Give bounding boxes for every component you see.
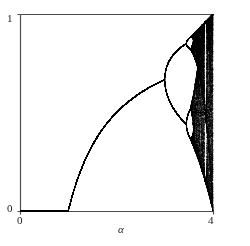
x-axis-tick-label-max: 4 [208,215,214,226]
x-axis-tick-label-min: 0 [17,215,23,226]
x-axis-title: α [118,224,124,235]
bifurcation-figure: 1 0 0 4 α [0,0,250,246]
bifurcation-plot-canvas [0,0,250,246]
y-axis-tick-label-min: 0 [7,203,13,214]
y-axis-tick-label-max: 1 [7,13,13,24]
